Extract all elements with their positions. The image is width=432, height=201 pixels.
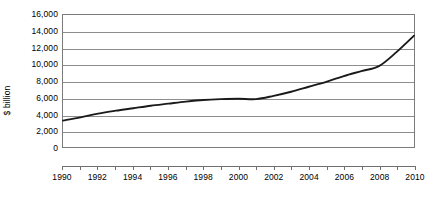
x-axis-tick bbox=[221, 166, 222, 170]
y-axis-title: $ billion bbox=[0, 0, 14, 201]
x-axis-tick-label: 1990 bbox=[52, 172, 71, 182]
y-axis-tick-label: 12,000 bbox=[14, 43, 58, 53]
y-axis-tick-label: 0 bbox=[14, 143, 58, 153]
x-axis-tick bbox=[291, 166, 292, 170]
x-axis-tick bbox=[97, 166, 98, 170]
x-axis-tick-label: 2006 bbox=[335, 172, 354, 182]
x-axis-tick bbox=[239, 166, 240, 170]
series-path bbox=[63, 36, 414, 121]
y-axis-tick-labels: 02,0004,0006,0008,00010,00012,00014,0001… bbox=[14, 0, 58, 201]
x-axis-tick bbox=[256, 166, 257, 170]
x-axis-tick-label: 2002 bbox=[264, 172, 283, 182]
x-axis-tick-label: 2010 bbox=[405, 172, 424, 182]
x-axis-tick-label: 2000 bbox=[229, 172, 248, 182]
x-axis-tick-label: 1996 bbox=[158, 172, 177, 182]
y-axis-tick-label: 10,000 bbox=[14, 59, 58, 69]
y-axis-tick-label: 14,000 bbox=[14, 26, 58, 36]
x-axis-tick bbox=[380, 166, 381, 170]
x-axis-line bbox=[62, 166, 415, 167]
y-axis-tick-label: 4,000 bbox=[14, 110, 58, 120]
x-axis-tick-label: 2004 bbox=[299, 172, 318, 182]
line-chart: $ billion 02,0004,0006,0008,00010,00012,… bbox=[0, 0, 432, 201]
x-axis-tick bbox=[203, 166, 204, 170]
x-axis-tick-labels: 1990199219941996199820002002200420062008… bbox=[0, 172, 432, 188]
x-axis-tick-label: 1992 bbox=[88, 172, 107, 182]
x-axis-tick-label: 1994 bbox=[123, 172, 142, 182]
plot-area bbox=[62, 14, 415, 148]
x-axis-tick bbox=[150, 166, 151, 170]
y-axis-tick-label: 6,000 bbox=[14, 93, 58, 103]
x-axis-tick bbox=[327, 166, 328, 170]
x-axis-tick-label: 2008 bbox=[370, 172, 389, 182]
y-axis-tick-label: 2,000 bbox=[14, 126, 58, 136]
x-axis-tick bbox=[168, 166, 169, 170]
x-axis-tick bbox=[115, 166, 116, 170]
x-axis-tick bbox=[397, 166, 398, 170]
x-axis-tick bbox=[415, 166, 416, 170]
x-axis-tick bbox=[186, 166, 187, 170]
x-axis-tick bbox=[80, 166, 81, 170]
y-axis-tick-label: 16,000 bbox=[14, 9, 58, 19]
x-axis-tick bbox=[309, 166, 310, 170]
x-axis-tick-label: 1998 bbox=[194, 172, 213, 182]
x-axis-tick bbox=[362, 166, 363, 170]
x-axis-tick bbox=[62, 166, 63, 170]
x-axis-tick bbox=[274, 166, 275, 170]
x-axis-tick bbox=[344, 166, 345, 170]
series-line bbox=[63, 15, 414, 147]
y-axis-tick-label: 8,000 bbox=[14, 76, 58, 86]
x-axis-tick bbox=[133, 166, 134, 170]
